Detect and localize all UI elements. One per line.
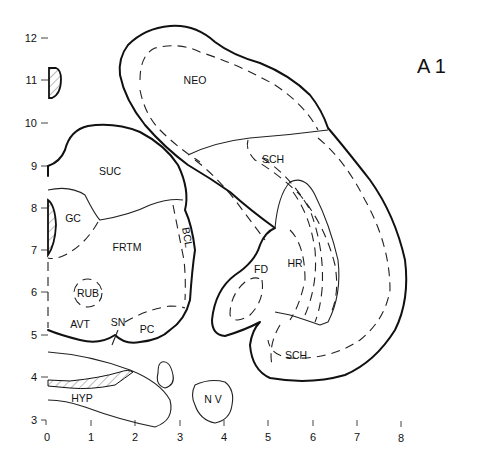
y-tick-9: 9 bbox=[31, 160, 37, 172]
x-tick-1: 1 bbox=[88, 431, 94, 443]
small-blob bbox=[157, 362, 173, 388]
hr-dashed bbox=[293, 192, 316, 315]
x-tick-2: 2 bbox=[132, 431, 138, 443]
label-avt: AVT bbox=[70, 318, 90, 330]
x-tick-8: 8 bbox=[398, 432, 404, 444]
label-gc: GC bbox=[65, 212, 81, 224]
hr-inner-dashed bbox=[290, 230, 305, 320]
fd-dashed bbox=[230, 278, 263, 320]
sch-dashed-outer bbox=[268, 138, 390, 358]
y-tick-12: 12 bbox=[25, 32, 37, 44]
bcl-dashed bbox=[173, 205, 185, 300]
y-tick-3: 3 bbox=[31, 414, 37, 426]
lower-sch-dashed bbox=[271, 325, 280, 365]
label-neo: NEO bbox=[184, 74, 207, 86]
y-tick-4: 4 bbox=[31, 371, 37, 383]
upper-sch-dashed bbox=[195, 160, 265, 240]
label-hr: HR bbox=[287, 257, 303, 269]
y-tick-10: 10 bbox=[25, 117, 37, 129]
figure-title: A 1 bbox=[417, 55, 446, 77]
label-sch-upper: SCH bbox=[262, 153, 284, 165]
x-axis: 0 1 2 3 4 5 6 7 8 bbox=[44, 420, 404, 444]
label-bcl: BCL bbox=[180, 226, 195, 248]
label-frtm: FRTM bbox=[113, 241, 142, 253]
label-nv: N V bbox=[204, 393, 222, 405]
y-tick-7: 7 bbox=[31, 244, 37, 256]
atlas-figure: 12 11 10 9 8 7 6 5 4 3 0 1 2 3 4 5 6 7 8… bbox=[0, 0, 482, 471]
label-rub: RUB bbox=[77, 287, 99, 299]
neo-dashed-boundary bbox=[140, 46, 318, 162]
hatched-nucleus-top bbox=[49, 68, 61, 98]
x-tick-0: 0 bbox=[44, 431, 50, 443]
y-axis: 12 11 10 9 8 7 6 5 4 3 bbox=[25, 32, 48, 426]
x-tick-7: 7 bbox=[354, 431, 360, 443]
pc-dashed bbox=[125, 306, 185, 322]
label-sch-lower: SCH bbox=[285, 349, 307, 361]
hyp-outline bbox=[48, 352, 171, 427]
label-suc: SUC bbox=[99, 165, 122, 177]
x-tick-3: 3 bbox=[177, 431, 183, 443]
x-tick-4: 4 bbox=[221, 431, 227, 443]
label-fd: FD bbox=[254, 263, 268, 275]
label-pc: PC bbox=[140, 323, 155, 335]
x-tick-6: 6 bbox=[310, 431, 316, 443]
hr-contour bbox=[275, 180, 339, 325]
x-tick-5: 5 bbox=[265, 431, 271, 443]
neo-sch-divider bbox=[188, 130, 328, 155]
hyp-hatched bbox=[48, 371, 133, 389]
midbrain-outline bbox=[48, 125, 195, 343]
gc-hatched bbox=[48, 200, 56, 255]
label-hyp: HYP bbox=[71, 392, 93, 404]
sch-dashed-mid bbox=[247, 140, 336, 315]
label-sn: SN bbox=[111, 316, 126, 328]
y-tick-11: 11 bbox=[26, 74, 37, 86]
neo-outer-contour bbox=[120, 26, 407, 381]
y-tick-6: 6 bbox=[31, 286, 37, 298]
y-tick-8: 8 bbox=[31, 202, 37, 214]
y-tick-5: 5 bbox=[31, 329, 37, 341]
